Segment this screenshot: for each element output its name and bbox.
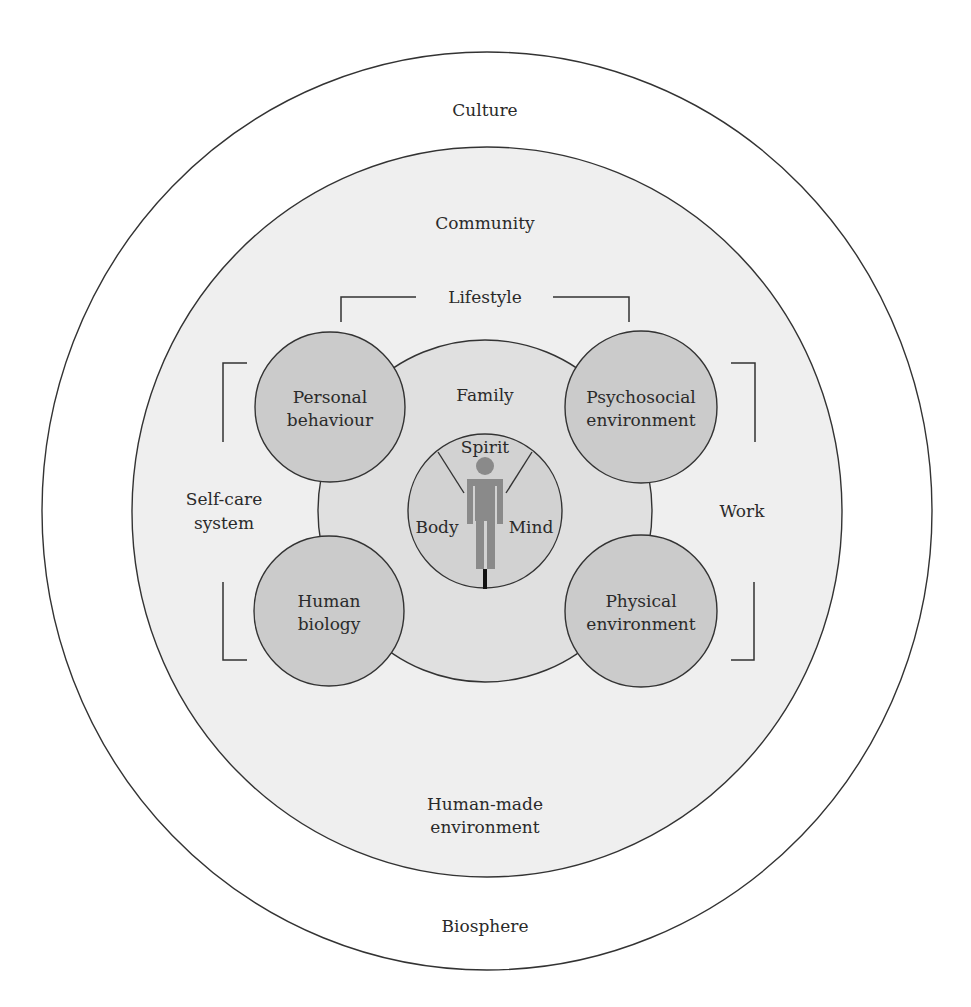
physical-environment-label-line1: Physical [605, 591, 676, 611]
health-mandala-diagram: Culture Community Lifestyle Family Human… [0, 0, 971, 1007]
culture-label: Culture [452, 100, 517, 120]
human-biology-circle [254, 536, 404, 686]
self-care-system-label-line2: system [194, 513, 254, 533]
personal-behaviour-label-line1: Personal [293, 387, 367, 407]
psychosocial-environment-circle [565, 331, 717, 483]
mind-label: Mind [509, 517, 554, 537]
human-made-environment-label-line1: Human-made [427, 794, 543, 814]
human-made-environment-label-line2: environment [430, 817, 539, 837]
biosphere-label: Biosphere [442, 916, 529, 936]
psychosocial-environment-label-line2: environment [586, 410, 695, 430]
self-care-system-label-line1: Self-care [186, 489, 262, 509]
personal-behaviour-circle [255, 332, 405, 482]
physical-environment-circle [565, 535, 717, 687]
human-biology-label-line1: Human [298, 591, 361, 611]
person-stand-post [483, 569, 487, 589]
community-label: Community [435, 213, 535, 233]
personal-behaviour-label-line2: behaviour [287, 410, 374, 430]
body-label: Body [415, 517, 459, 537]
physical-environment-label-line2: environment [586, 614, 695, 634]
lifestyle-label: Lifestyle [448, 287, 522, 307]
psychosocial-environment-label-line1: Psychosocial [586, 387, 696, 407]
family-label: Family [456, 385, 514, 405]
human-biology-label-line2: biology [298, 614, 361, 634]
work-label: Work [720, 501, 766, 521]
spirit-label: Spirit [461, 437, 510, 457]
